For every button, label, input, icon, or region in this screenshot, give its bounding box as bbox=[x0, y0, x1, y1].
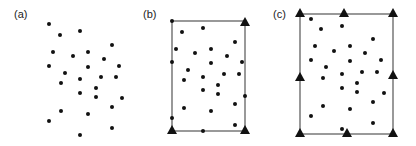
data-point bbox=[94, 86, 98, 90]
data-point bbox=[225, 54, 229, 58]
data-point bbox=[216, 92, 220, 96]
data-point bbox=[170, 116, 174, 120]
data-point bbox=[319, 27, 323, 31]
data-point bbox=[340, 72, 344, 76]
data-point bbox=[348, 59, 352, 63]
data-point bbox=[363, 51, 367, 55]
data-point bbox=[180, 30, 184, 34]
panel-c-frame bbox=[300, 14, 393, 134]
data-point bbox=[209, 109, 213, 113]
data-point bbox=[371, 37, 375, 41]
panel-b-frame bbox=[172, 21, 245, 131]
data-point bbox=[78, 91, 82, 95]
data-point bbox=[110, 126, 114, 130]
data-point bbox=[348, 107, 352, 111]
data-point bbox=[375, 70, 379, 74]
data-point bbox=[332, 49, 336, 53]
bounding-frame bbox=[172, 21, 245, 131]
data-point bbox=[86, 112, 90, 116]
data-point bbox=[233, 40, 237, 44]
data-point bbox=[78, 77, 82, 81]
data-point bbox=[382, 91, 386, 95]
data-point bbox=[340, 127, 344, 131]
data-point bbox=[59, 109, 63, 113]
data-point bbox=[240, 60, 244, 64]
data-point bbox=[355, 81, 359, 85]
panel-c: (c) bbox=[273, 8, 398, 137]
data-point bbox=[59, 81, 63, 85]
data-point bbox=[201, 88, 205, 92]
data-point bbox=[313, 44, 317, 48]
data-point bbox=[360, 70, 364, 74]
data-point bbox=[355, 90, 359, 94]
data-point bbox=[243, 94, 247, 98]
data-point bbox=[78, 133, 82, 137]
data-point bbox=[174, 47, 178, 51]
data-point bbox=[110, 105, 114, 109]
data-point bbox=[309, 17, 313, 21]
data-point bbox=[216, 83, 220, 87]
triangle-marker-icon bbox=[295, 8, 305, 17]
data-point bbox=[170, 19, 174, 23]
panel-c-points bbox=[309, 17, 386, 131]
data-point bbox=[120, 96, 124, 100]
data-point bbox=[237, 72, 241, 76]
data-point bbox=[47, 119, 51, 123]
data-point bbox=[102, 57, 106, 61]
data-point bbox=[233, 123, 237, 127]
data-point bbox=[222, 72, 226, 76]
data-point bbox=[86, 65, 90, 69]
data-point bbox=[182, 78, 186, 82]
data-point bbox=[379, 58, 383, 62]
triangle-marker-icon bbox=[388, 70, 398, 79]
data-point bbox=[51, 50, 55, 54]
data-point bbox=[99, 75, 103, 79]
data-point bbox=[321, 104, 325, 108]
panel-c-label: (c) bbox=[273, 8, 286, 20]
data-point bbox=[110, 43, 114, 47]
triangle-marker-icon bbox=[295, 128, 305, 137]
data-point bbox=[209, 47, 213, 51]
data-point bbox=[71, 54, 75, 58]
triangle-marker-icon bbox=[388, 128, 398, 137]
data-point bbox=[309, 114, 313, 118]
data-point bbox=[321, 76, 325, 80]
triangle-marker-icon bbox=[295, 72, 305, 81]
data-point bbox=[94, 95, 98, 99]
data-point bbox=[201, 26, 205, 30]
panel-b-points bbox=[170, 19, 247, 133]
data-point bbox=[324, 65, 328, 69]
triangle-marker-icon bbox=[167, 125, 177, 134]
panel-b-triangles bbox=[167, 17, 250, 134]
panel-a: (a) bbox=[14, 8, 124, 137]
data-point bbox=[47, 64, 51, 68]
data-point bbox=[186, 68, 190, 72]
panel-a-label: (a) bbox=[14, 8, 27, 20]
data-point bbox=[114, 75, 118, 79]
data-point bbox=[340, 86, 344, 90]
data-point bbox=[309, 58, 313, 62]
data-point bbox=[348, 44, 352, 48]
data-point bbox=[182, 106, 186, 110]
data-point bbox=[78, 29, 82, 33]
panel-a-points bbox=[47, 22, 124, 137]
data-point bbox=[371, 100, 375, 104]
data-point bbox=[193, 51, 197, 55]
data-point bbox=[233, 102, 237, 106]
bounding-frame bbox=[300, 14, 393, 134]
data-point bbox=[201, 129, 205, 133]
data-point bbox=[201, 75, 205, 79]
data-point bbox=[117, 64, 121, 68]
figure: (a) (b) (c) bbox=[0, 0, 416, 146]
data-point bbox=[170, 60, 174, 64]
data-point bbox=[47, 22, 51, 26]
triangle-marker-icon bbox=[339, 8, 349, 17]
data-point bbox=[86, 50, 90, 54]
triangle-marker-icon bbox=[388, 8, 398, 17]
data-point bbox=[63, 71, 67, 75]
data-point bbox=[371, 121, 375, 125]
panel-b-label: (b) bbox=[143, 8, 156, 20]
data-point bbox=[58, 33, 62, 37]
data-point bbox=[209, 61, 213, 65]
triangle-marker-icon bbox=[240, 125, 250, 134]
